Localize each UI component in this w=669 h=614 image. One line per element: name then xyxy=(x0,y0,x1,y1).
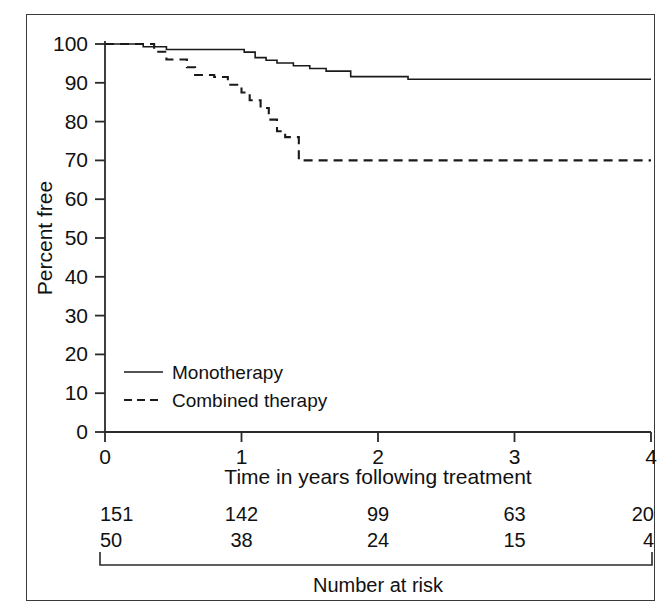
y-tick-label-40: 40 xyxy=(65,265,88,288)
y-tick-label-80: 80 xyxy=(65,110,88,133)
y-tick-label-50: 50 xyxy=(65,226,88,249)
y-tick-label-20: 20 xyxy=(65,342,88,365)
risk-value: 99 xyxy=(367,503,389,525)
y-tick-label-70: 70 xyxy=(65,148,88,171)
legend: Monotherapy Combined therapy xyxy=(124,362,328,411)
y-axis-title: Percent free xyxy=(33,181,56,295)
numbers-at-risk-row-monotherapy: 151142996320 xyxy=(100,503,654,525)
numbers-at-risk-row-combined-therapy: 503824154 xyxy=(100,529,654,551)
curve-combined-therapy xyxy=(105,44,651,160)
risk-value: 20 xyxy=(632,503,654,525)
risk-value: 38 xyxy=(230,529,252,551)
curve-monotherapy xyxy=(105,44,651,79)
kaplan-meier-plot: 0102030405060708090100 01234 Percent fre… xyxy=(0,0,669,614)
risk-value: 63 xyxy=(503,503,525,525)
risk-value: 142 xyxy=(225,503,258,525)
numbers-at-risk-caption: Number at risk xyxy=(313,574,444,596)
risk-value: 4 xyxy=(643,529,654,551)
risk-value: 50 xyxy=(100,529,122,551)
y-axis-ticks xyxy=(95,44,105,432)
y-axis-tick-labels: 0102030405060708090100 xyxy=(53,32,88,443)
x-tick-label-4: 4 xyxy=(645,445,657,468)
x-tick-label-0: 0 xyxy=(99,445,111,468)
risk-value: 15 xyxy=(503,529,525,551)
numbers-at-risk-bracket xyxy=(100,552,652,565)
risk-value: 151 xyxy=(100,503,133,525)
legend-label-monotherapy: Monotherapy xyxy=(172,362,283,383)
y-tick-label-0: 0 xyxy=(76,420,88,443)
legend-label-combined-therapy: Combined therapy xyxy=(172,390,328,411)
risk-value: 24 xyxy=(367,529,389,551)
y-tick-label-100: 100 xyxy=(53,32,88,55)
y-tick-label-30: 30 xyxy=(65,304,88,327)
x-axis-ticks xyxy=(105,432,651,442)
y-tick-label-60: 60 xyxy=(65,187,88,210)
figure-container: 0102030405060708090100 01234 Percent fre… xyxy=(0,0,669,614)
y-tick-label-10: 10 xyxy=(65,381,88,404)
y-tick-label-90: 90 xyxy=(65,71,88,94)
x-axis-title: Time in years following treatment xyxy=(224,465,532,488)
